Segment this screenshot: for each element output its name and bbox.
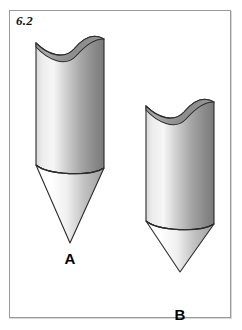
figure-frame: 6.2	[9, 10, 231, 318]
shape-a-label: A	[28, 250, 112, 267]
shape-a-illustration	[28, 25, 112, 275]
shape-a: A	[28, 25, 112, 275]
shape-b-label: B	[138, 306, 222, 323]
shape-b: B	[138, 88, 222, 330]
shape-b-illustration	[138, 88, 222, 330]
shape-a-cone	[36, 165, 104, 243]
